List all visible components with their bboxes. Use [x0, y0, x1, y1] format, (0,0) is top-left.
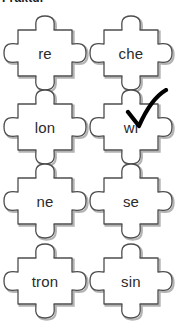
puzzle-piece-outline: [86, 12, 176, 94]
puzzle-piece-outline: [0, 86, 90, 168]
puzzle-piece-tron[interactable]: tron: [0, 240, 90, 322]
puzzle-piece-outline: [86, 240, 176, 322]
puzzle-piece-che[interactable]: che: [86, 12, 176, 94]
puzzle-board: rechelonwinesetronsin: [0, 6, 181, 333]
puzzle-piece-wi[interactable]: wi: [86, 86, 176, 168]
page-title: Fraktur: [2, 0, 45, 5]
puzzle-piece-outline: [86, 160, 176, 242]
puzzle-piece-ne[interactable]: ne: [0, 160, 90, 242]
puzzle-piece-re[interactable]: re: [0, 12, 90, 94]
puzzle-piece-sin[interactable]: sin: [86, 240, 176, 322]
puzzle-piece-outline: [0, 160, 90, 242]
puzzle-piece-outline: [0, 240, 90, 322]
puzzle-piece-outline: [86, 86, 176, 168]
puzzle-piece-lon[interactable]: lon: [0, 86, 90, 168]
puzzle-piece-se[interactable]: se: [86, 160, 176, 242]
puzzle-piece-outline: [0, 12, 90, 94]
